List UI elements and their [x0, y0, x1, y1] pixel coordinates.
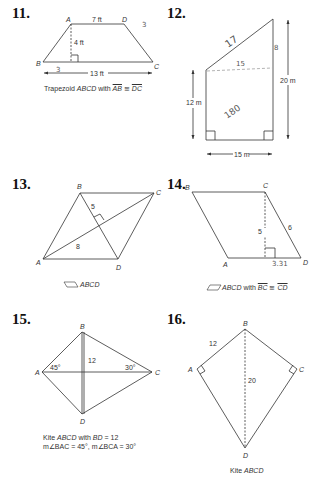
handwritten-dashed-line: [207, 68, 272, 71]
problem-14-caption: ABCD with BC ≅ CD: [222, 284, 288, 292]
label-c: C: [299, 366, 305, 373]
handwritten-note: 8: [274, 44, 278, 52]
diagonal-length: 8: [76, 243, 80, 250]
problem-13-figure: [43, 193, 154, 259]
label-b: B: [80, 323, 85, 330]
bottom-length: 13 ft: [90, 70, 104, 77]
label-c: C: [156, 189, 162, 196]
diagonal-bd: [80, 193, 118, 259]
top-length: 7 ft: [92, 16, 102, 23]
handwritten-note: 3: [142, 21, 146, 29]
segment-ab: AB: [113, 85, 122, 92]
diagonal-ac: [43, 193, 154, 259]
side-length: 6: [288, 224, 292, 231]
label-c: C: [155, 369, 161, 376]
label-c: C: [263, 182, 269, 189]
label-c: C: [154, 63, 160, 70]
label-b: B: [36, 60, 41, 67]
height-length: 4 ft: [74, 39, 84, 46]
label-b: B: [243, 320, 248, 327]
handwritten-note: 17: [223, 33, 240, 49]
label-d: D: [303, 259, 308, 266]
problem-15-caption-line2: m∠BAC = 45°, m∠BCA = 30°: [43, 443, 136, 451]
ab-length: 12: [209, 340, 217, 347]
right-angle-mark: [265, 248, 275, 258]
left-length: 12 m: [186, 99, 202, 106]
label-d: D: [116, 264, 121, 271]
handwritten-note: 3.31: [272, 260, 288, 268]
trapezoid-abcd: [43, 24, 153, 62]
problem-15-figure: [42, 332, 152, 414]
problem-11-caption: Trapezoid ABCD with AB ≅ DC: [44, 85, 142, 93]
parallelogram-abcd: [192, 192, 301, 258]
bd-length: 12: [88, 357, 96, 364]
handwritten-note: 180: [222, 102, 242, 120]
parallelogram-symbol-icon: [64, 282, 78, 287]
problem-16-caption: Kite ABCD: [230, 467, 263, 474]
handwritten-note: 3: [56, 66, 60, 74]
label-a: A: [34, 369, 40, 376]
angle-c: 30°: [125, 364, 136, 371]
caption: ABCD: [79, 281, 99, 288]
bottom-length: 15 m: [234, 151, 250, 158]
segment-cd: CD: [277, 284, 287, 291]
label-b: B: [77, 183, 82, 190]
right-angle-mark: [264, 131, 273, 140]
segment-dc: DC: [132, 85, 142, 92]
trapezoid-figure: [206, 19, 273, 140]
label-a: A: [65, 16, 71, 23]
label-a: A: [187, 366, 193, 373]
right-angle-mark: [94, 214, 104, 220]
label-a: A: [35, 259, 41, 266]
label-d: D: [80, 418, 85, 425]
problem-12-figure: [192, 19, 290, 156]
parallelogram-symbol-icon: [207, 285, 221, 290]
label-d: D: [243, 452, 248, 459]
half-diagonal-length: 5: [91, 203, 95, 210]
label-b: B: [185, 184, 190, 191]
label-d: D: [122, 16, 127, 23]
right-length: 20 m: [280, 77, 296, 84]
segment-bc: BC: [258, 284, 268, 291]
label-a: A: [222, 261, 228, 268]
kite-abcd: [42, 332, 152, 414]
right-angle-mark: [71, 55, 78, 62]
worksheet-figures: A D B C 7 ft 4 ft 13 ft 3 3 12 m 20 m 15…: [0, 0, 318, 481]
problem-14-figure: [192, 192, 301, 258]
height-length: 5: [258, 228, 262, 235]
bd-length: 20: [248, 377, 256, 384]
problem-15-caption-line1: Kite ABCD with BD = 12: [43, 434, 118, 441]
angle-a: 45°: [50, 364, 61, 371]
right-angle-mark: [206, 131, 215, 140]
handwritten-note: 15: [236, 60, 245, 68]
